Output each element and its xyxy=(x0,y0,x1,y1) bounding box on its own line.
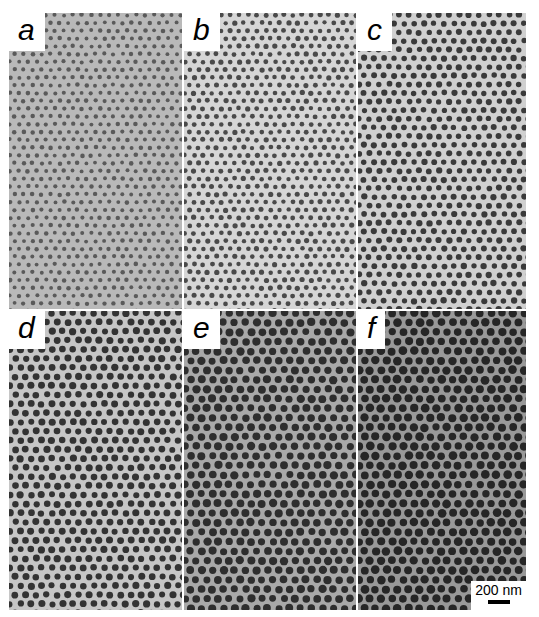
pore-array-image xyxy=(184,311,356,610)
pore-array-image xyxy=(9,311,182,610)
panel-label: d xyxy=(9,311,45,349)
pore-array-image xyxy=(358,311,526,610)
panel-e: e xyxy=(184,311,356,610)
scale-bar: 200 nm xyxy=(471,581,526,610)
panel-c: c xyxy=(358,13,526,309)
panel-f: f 200 nm xyxy=(358,311,526,610)
sem-figure: a b c d e f 200 nm xyxy=(9,13,526,610)
scale-bar-label: 200 nm xyxy=(475,583,522,598)
panel-a: a xyxy=(9,13,182,309)
panel-label: f xyxy=(358,311,385,349)
panel-label: c xyxy=(358,13,392,51)
panel-d: d xyxy=(9,311,182,610)
panel-label: e xyxy=(184,311,220,349)
panel-label: a xyxy=(9,13,45,51)
pore-array-image xyxy=(358,13,526,309)
pore-array-image xyxy=(184,13,356,309)
scale-bar-line xyxy=(488,600,510,604)
pore-array-image xyxy=(9,13,182,309)
panel-b: b xyxy=(184,13,356,309)
panel-label: b xyxy=(184,13,220,51)
